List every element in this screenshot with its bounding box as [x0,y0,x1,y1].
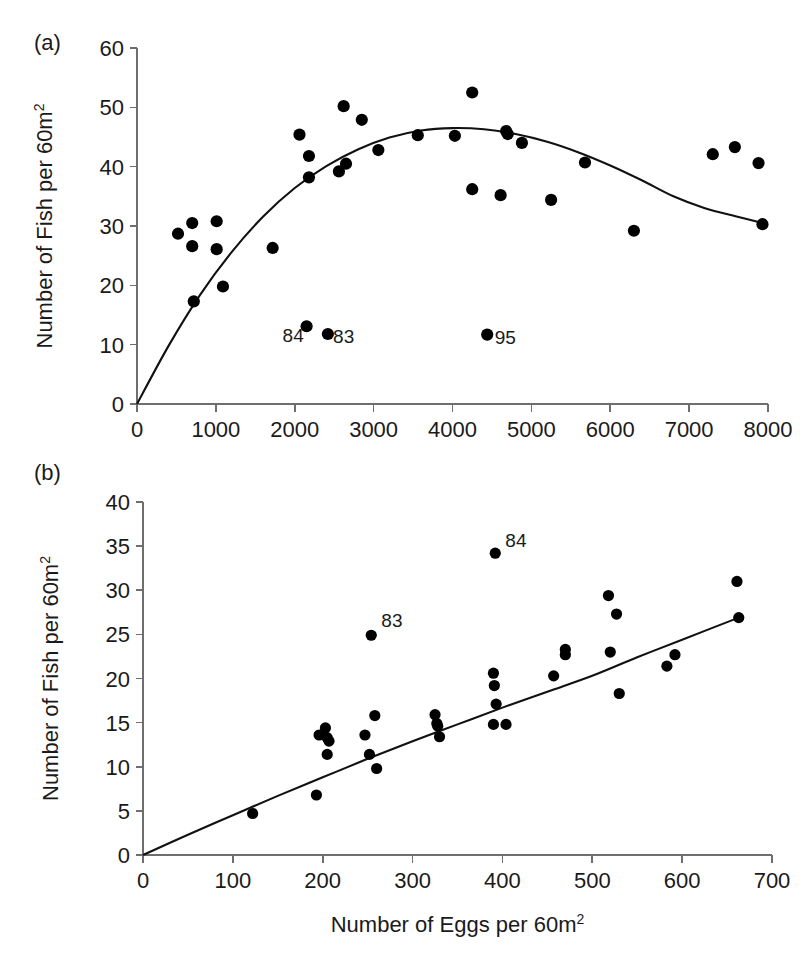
data-point [628,225,640,237]
data-point [432,721,443,732]
figure-root: (a)0102030405060010002000300040005000600… [0,0,809,970]
data-point [545,194,557,206]
x-axis-title: Number of Eggs per 60m2 [331,911,585,937]
data-point [311,789,322,800]
y-axis-title-text: Number of Fish per 60m2 [31,103,57,348]
data-point [491,698,502,709]
data-point [611,608,622,619]
x-tick-label: 2000 [270,417,319,442]
data-point [322,749,333,760]
point-annotation: 84 [505,530,527,551]
x-tick-label: 100 [214,868,251,893]
data-point [560,649,571,660]
data-point [603,590,614,601]
data-point [247,808,258,819]
point-annotation: 83 [381,610,402,631]
data-point [466,86,478,98]
y-tick-label: 5 [118,799,130,824]
data-point [752,157,764,169]
data-point [211,243,223,255]
data-point [217,280,229,292]
data-point [366,630,377,641]
data-point [502,128,514,140]
data-point [579,156,591,168]
data-point [320,722,331,733]
data-point [211,215,223,227]
point-annotation: 84 [283,325,305,346]
x-tick-label: 200 [304,868,341,893]
data-point [340,158,352,170]
x-tick-label: 3000 [349,417,398,442]
y-tick-label: 50 [100,95,124,120]
data-point [605,646,616,657]
y-tick-label: 0 [112,392,124,417]
data-point [495,189,507,201]
data-point [516,137,528,149]
y-tick-label: 20 [100,273,124,298]
x-tick-label: 1000 [191,417,240,442]
data-point [186,217,198,229]
data-point [661,661,672,672]
data-point [733,612,744,623]
data-point [669,649,680,660]
data-point [303,171,315,183]
data-point [293,129,305,141]
panel-b-chart: (b)0510152025303540010020030040050060070… [0,440,809,970]
x-tick-label: 5000 [507,417,556,442]
y-axis-title-text: Number of Fish per 60m2 [37,556,63,801]
y-tick-label: 35 [106,534,130,559]
y-tick-label: 0 [118,843,130,868]
data-point [756,218,768,230]
data-point [364,749,375,760]
y-tick-label: 40 [106,490,130,515]
data-point [489,680,500,691]
y-tick-label: 10 [100,333,124,358]
data-point [707,148,719,160]
x-tick-label: 0 [131,417,143,442]
data-point [729,141,741,153]
x-tick-label: 400 [484,868,521,893]
data-point [323,736,334,747]
data-point [303,150,315,162]
data-point [488,719,499,730]
data-point [188,295,200,307]
data-point [490,548,501,559]
y-axis-title: Number of Fish per 60m2 [37,556,63,801]
data-point [731,576,742,587]
data-point [359,729,370,740]
x-tick-label: 8000 [744,417,793,442]
data-point [338,100,350,112]
data-point [356,114,368,126]
data-point [172,228,184,240]
x-tick-label: 4000 [428,417,477,442]
panel-label: (b) [34,460,61,485]
y-tick-label: 40 [100,155,124,180]
x-tick-label: 500 [574,868,611,893]
point-annotation: 83 [333,326,354,347]
y-tick-label: 25 [106,622,130,647]
data-point [186,240,198,252]
point-annotation: 95 [495,327,516,348]
y-tick-label: 10 [106,755,130,780]
x-tick-label: 600 [664,868,701,893]
y-tick-label: 15 [106,711,130,736]
y-tick-label: 20 [106,667,130,692]
x-tick-label: 300 [394,868,431,893]
data-point [548,670,559,681]
panel-a-chart: (a)0102030405060010002000300040005000600… [0,0,809,445]
x-tick-label: 7000 [665,417,714,442]
data-point [371,763,382,774]
data-point [369,710,380,721]
fit-curve [137,128,762,404]
data-point [372,144,384,156]
data-point [500,719,511,730]
data-point [488,668,499,679]
x-tick-label: 700 [754,868,791,893]
data-point [466,183,478,195]
y-tick-label: 30 [100,214,124,239]
data-point [614,688,625,699]
panel-label: (a) [34,30,61,55]
data-point [434,731,445,742]
y-axis-title: Number of Fish per 60m2 [31,103,57,348]
data-point [412,129,424,141]
